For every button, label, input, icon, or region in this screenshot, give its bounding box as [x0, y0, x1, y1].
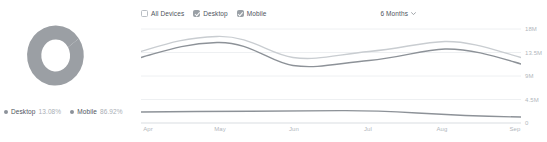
chart-toolbar: All Devices Desktop Mobile 6 Months: [141, 7, 417, 20]
series-toggle-label-desktop: Desktop: [203, 10, 228, 17]
line-chart-plot: [141, 24, 521, 124]
series-toggle-mobile[interactable]: Mobile: [237, 10, 267, 17]
checkbox-mobile[interactable]: [237, 10, 244, 17]
legend-value-mobile: 86.92%: [100, 108, 123, 115]
chevron-down-icon: [411, 12, 416, 15]
legend-item-desktop[interactable]: Desktop 13.08%: [4, 108, 61, 115]
x-tick-sep: Sep: [510, 126, 521, 132]
x-tick-jun: Jun: [289, 126, 299, 132]
series-toggle-all-devices[interactable]: All Devices: [141, 10, 184, 17]
traffic-line-chart-panel: All Devices Desktop Mobile 6 Months: [136, 0, 423, 142]
x-tick-jul: Jul: [364, 126, 372, 132]
time-range-dropdown[interactable]: 6 Months: [380, 10, 417, 17]
x-tick-aug: Aug: [437, 126, 448, 132]
legend-label-mobile: Mobile: [77, 108, 97, 115]
donut-chart-svg: [11, 8, 101, 103]
y-tick-4: 0: [525, 120, 528, 126]
y-tick-0: 18M: [525, 26, 537, 32]
legend-dot-desktop: [4, 110, 8, 114]
series-line-all-devices[interactable]: [141, 36, 521, 58]
donut-legend: Desktop 13.08% Mobile 86.92%: [4, 108, 123, 115]
legend-item-mobile[interactable]: Mobile 86.92%: [70, 108, 122, 115]
time-range-value: 6 Months: [380, 10, 408, 17]
x-tick-may: May: [214, 126, 226, 132]
checkbox-all-devices[interactable]: [141, 10, 148, 17]
legend-dot-mobile: [70, 110, 74, 114]
x-tick-apr: Apr: [143, 126, 153, 132]
x-axis: Apr May Jun Jul Aug Sep: [141, 126, 521, 138]
line-chart-svg: [141, 24, 521, 124]
series-line-mobile[interactable]: [141, 42, 521, 66]
device-share-donut-panel: Desktop 13.08% Mobile 86.92%: [0, 0, 136, 142]
y-tick-1: 13.5M: [525, 50, 542, 56]
series-toggle-label-all-devices: All Devices: [151, 10, 184, 17]
series-lines: [141, 36, 521, 117]
checkbox-desktop[interactable]: [193, 10, 200, 17]
series-toggle-label-mobile: Mobile: [247, 10, 267, 17]
donut-chart: [11, 8, 101, 103]
legend-value-desktop: 13.08%: [39, 108, 62, 115]
legend-label-desktop: Desktop: [11, 108, 36, 115]
series-toggle-group: All Devices Desktop Mobile: [141, 10, 267, 17]
y-axis: 18M 13.5M 9M 4.5M 0: [525, 24, 547, 124]
series-toggle-desktop[interactable]: Desktop: [193, 10, 228, 17]
series-line-desktop[interactable]: [141, 111, 521, 117]
y-tick-2: 9M: [525, 73, 534, 79]
y-tick-3: 4.5M: [525, 97, 539, 103]
